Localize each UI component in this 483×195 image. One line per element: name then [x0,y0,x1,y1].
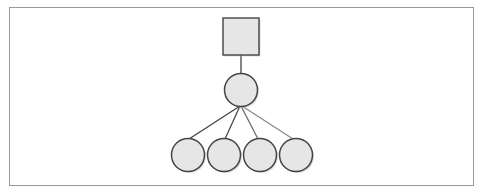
circle-node-leaf4 [280,139,313,172]
nodes [172,18,315,173]
circle-node-leaf3 [244,139,277,172]
circle-node-leaf2 [208,139,241,172]
circle-node-mid [225,74,258,107]
tree-diagram [0,0,483,195]
square-node-root [223,18,259,55]
circle-node-leaf1 [172,139,205,172]
